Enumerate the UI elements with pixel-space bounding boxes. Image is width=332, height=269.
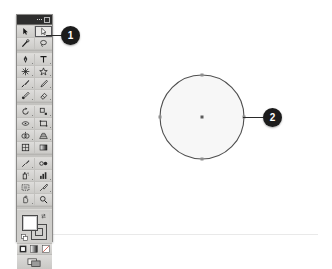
callout-badge-2: 2 — [263, 108, 282, 127]
flyout-triangle-icon — [32, 87, 33, 88]
flyout-triangle-icon — [50, 127, 51, 128]
flyout-triangle-icon — [32, 75, 33, 76]
slice-tool[interactable] — [35, 182, 53, 194]
arrow-solid-icon — [21, 27, 30, 36]
fill-swatch[interactable] — [22, 215, 38, 231]
change-screen-mode-button[interactable] — [17, 255, 52, 269]
flyout-triangle-icon — [50, 191, 51, 192]
transform-box-icon — [39, 119, 48, 128]
pencil-tool[interactable] — [35, 78, 53, 90]
eyedropper-tool[interactable] — [17, 158, 35, 170]
center-point — [201, 116, 204, 119]
magic-wand-tool[interactable] — [17, 38, 35, 50]
blend-tool[interactable] — [35, 158, 53, 170]
type-tool[interactable] — [35, 54, 53, 66]
blob-brush-icon — [21, 91, 30, 100]
rotate-arrow-icon — [21, 107, 30, 116]
flyout-triangle-icon — [32, 63, 33, 64]
scale-box-icon — [39, 107, 48, 116]
artboard-edge — [18, 234, 318, 235]
panel-grip-dots — [37, 19, 42, 20]
paintbrush-icon — [21, 79, 30, 88]
default-fill-stroke-icon[interactable] — [21, 234, 28, 241]
mesh-tool[interactable] — [17, 142, 35, 154]
shape-tool[interactable] — [35, 66, 53, 78]
slice-knife-icon — [39, 183, 48, 192]
flyout-triangle-icon — [32, 167, 33, 168]
shape-builder-tool[interactable] — [17, 130, 35, 142]
flyout-triangle-icon — [50, 99, 51, 100]
eyedropper-icon — [21, 159, 30, 168]
grip-dot — [37, 19, 38, 20]
gradient-tool[interactable] — [35, 142, 53, 154]
none-mode-button[interactable] — [42, 245, 50, 253]
perspective-grid-tool[interactable] — [35, 130, 53, 142]
letter-t-icon — [39, 55, 48, 64]
paint-mode-row — [17, 243, 52, 255]
mesh-grid-icon — [21, 143, 30, 152]
column-graph-tool[interactable] — [35, 170, 53, 182]
star-shape-icon — [39, 67, 48, 76]
panel-body — [17, 25, 52, 269]
zoom-tool[interactable] — [35, 194, 53, 206]
width-tool[interactable] — [17, 118, 35, 130]
swap-fill-stroke-icon[interactable] — [40, 213, 47, 220]
artboard-tool[interactable] — [17, 182, 35, 194]
flyout-triangle-icon — [50, 139, 51, 140]
tools-panel[interactable] — [16, 14, 53, 242]
color-mode-button[interactable] — [19, 245, 27, 253]
hand-icon — [21, 195, 30, 204]
magnifier-icon — [39, 195, 48, 204]
hand-tool[interactable] — [17, 194, 35, 206]
flyout-triangle-icon — [32, 179, 33, 180]
flyout-triangle-icon — [50, 75, 51, 76]
left-anchor[interactable] — [159, 116, 162, 119]
flyout-triangle-icon — [32, 203, 33, 204]
flyout-triangle-icon — [50, 179, 51, 180]
screen-mode-icon — [27, 257, 42, 268]
bottom-anchor[interactable] — [201, 158, 204, 161]
symbol-sprayer-tool[interactable] — [17, 170, 35, 182]
gradient-bar-icon — [39, 143, 48, 152]
blob-brush-tool[interactable] — [17, 90, 35, 102]
pen-tool[interactable] — [17, 54, 35, 66]
line-segment-tool[interactable] — [17, 66, 35, 78]
line-burst-icon — [21, 67, 30, 76]
flyout-triangle-icon — [50, 115, 51, 116]
free-transform-tool[interactable] — [35, 118, 53, 130]
flyout-triangle-icon — [50, 87, 51, 88]
lasso-icon — [39, 39, 48, 48]
flyout-triangle-icon — [32, 127, 33, 128]
rotate-tool[interactable] — [17, 106, 35, 118]
grip-dot — [39, 19, 40, 20]
artboard-frame-icon — [21, 183, 30, 192]
eraser-tool[interactable] — [35, 90, 53, 102]
magic-wand-icon — [21, 39, 30, 48]
tool-group-utility — [17, 158, 52, 206]
fill-stroke-control[interactable] — [20, 212, 49, 242]
tool-group-drawing — [17, 54, 52, 102]
width-shape-icon — [21, 119, 30, 128]
shape-builder-icon — [21, 131, 30, 140]
direct-selection-tool[interactable] — [35, 26, 53, 38]
tool-group-selection — [17, 26, 52, 50]
ellipse-object[interactable] — [160, 75, 244, 159]
grid-perspective-icon — [39, 131, 48, 140]
flyout-triangle-icon — [50, 63, 51, 64]
pencil-icon — [39, 79, 48, 88]
panel-titlebar[interactable] — [17, 15, 52, 25]
scale-tool[interactable] — [35, 106, 53, 118]
flyout-triangle-icon — [32, 139, 33, 140]
blend-shapes-icon — [39, 159, 48, 168]
panel-collapse-icon[interactable] — [44, 17, 50, 23]
lasso-tool[interactable] — [35, 38, 53, 50]
tool-group-divider — [17, 206, 52, 210]
gradient-mode-button[interactable] — [30, 245, 38, 253]
pen-nib-icon — [21, 55, 30, 64]
top-anchor[interactable] — [201, 74, 204, 77]
paintbrush-tool[interactable] — [17, 78, 35, 90]
selection-tool[interactable] — [17, 26, 35, 38]
eraser-icon — [39, 91, 48, 100]
grip-dot — [41, 19, 42, 20]
